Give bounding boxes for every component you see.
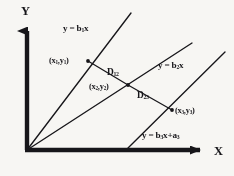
point-marker-p3 <box>170 108 174 112</box>
distance-label-d12: D12 <box>107 68 119 78</box>
point-label-p3: (x3,y3) <box>175 107 194 115</box>
line-label-b1: y = b1x <box>63 24 88 34</box>
distance-label-d23: D23 <box>137 91 149 101</box>
point-label-p1-close: ) <box>66 56 69 65</box>
point-label-p3-close: ) <box>192 106 195 115</box>
distance-label-d23-sub: 23 <box>144 94 149 100</box>
point-label-p1: (x1,y1) <box>49 57 68 65</box>
point-marker-p2 <box>126 83 130 87</box>
line-label-b3-var: x+a <box>163 130 177 140</box>
point-label-p1-open: (x <box>49 56 56 65</box>
distance-label-d12-sub: 12 <box>114 71 119 77</box>
regression-lines <box>27 13 225 150</box>
line-label-b2: y = b2x <box>158 61 183 71</box>
line-label-b3-text: y = b <box>142 130 161 140</box>
point-label-p3-open: (x <box>175 106 182 115</box>
segment-d23 <box>128 85 172 110</box>
line-label-b1-text: y = b <box>63 23 82 33</box>
line-label-b1-var: x <box>84 23 88 33</box>
line-label-b3: y = b3x+a3 <box>142 131 179 141</box>
distance-label-d23-text: D <box>137 90 144 100</box>
regression-distance-diagram: Y X y = b1x y = b2x y = b3x+a3 (x1,y1) (… <box>0 0 234 176</box>
point-label-p2: (x2,y2) <box>89 83 108 91</box>
line-label-b2-text: y = b <box>158 60 177 70</box>
point-label-p2-close: ) <box>106 82 109 91</box>
point-label-p2-open: (x <box>89 82 96 91</box>
x-axis-label: X <box>214 145 223 158</box>
diagram-canvas <box>0 0 234 176</box>
point-marker-p1 <box>86 59 90 63</box>
distance-label-d12-text: D <box>107 67 114 77</box>
line-label-b2-var: x <box>179 60 183 70</box>
y-axis-label: Y <box>21 5 30 18</box>
line-label-b3-sub2: 3 <box>177 134 179 140</box>
